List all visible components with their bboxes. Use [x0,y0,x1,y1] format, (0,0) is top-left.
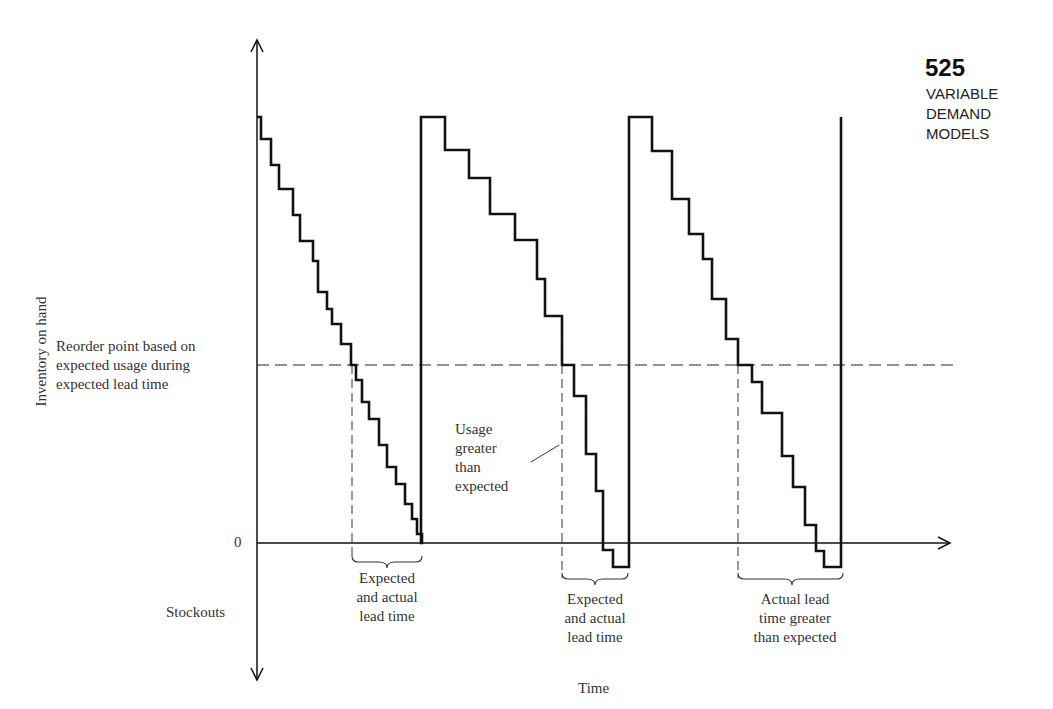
zero-tick-label: 0 [234,533,242,552]
reorder-label-line: expected usage during [56,356,196,375]
usage-note-line: expected [455,477,508,496]
brace-label-line: and actual [545,609,645,628]
brace-label-line: lead time [337,607,437,626]
x-axis-label: Time [578,679,609,698]
brace-label-line: time greater [735,609,855,628]
lead-time-markers [352,365,738,578]
brace-label-line: Expected [545,590,645,609]
usage-note-line: than [455,458,508,477]
brace-label-line: Actual lead [735,590,855,609]
inventory-step-line [257,117,841,567]
brace-label-line: lead time [545,628,645,647]
brace-label-line: than expected [735,628,855,647]
reorder-label-line: Reorder point based on [56,337,196,356]
brace-cycle-3 [738,573,843,585]
brace3-label: Actual lead time greater than expected [735,590,855,647]
brace-label-line: and actual [337,588,437,607]
usage-note: Usage greater than expected [455,420,508,496]
usage-note-line: greater [455,439,508,458]
brace-label-line: Expected [337,569,437,588]
usage-note-pointer [531,445,559,462]
stockouts-label: Stockouts [166,603,225,622]
reorder-point-label: Reorder point based on expected usage du… [56,337,196,394]
y-axis-label: Inventory on hand [32,267,51,437]
brace1-label: Expected and actual lead time [337,569,437,626]
brace-cycle-2 [562,573,628,585]
usage-note-line: Usage [455,420,508,439]
brace2-label: Expected and actual lead time [545,590,645,647]
brace-cycle-1 [352,556,422,568]
reorder-label-line: expected lead time [56,375,196,394]
